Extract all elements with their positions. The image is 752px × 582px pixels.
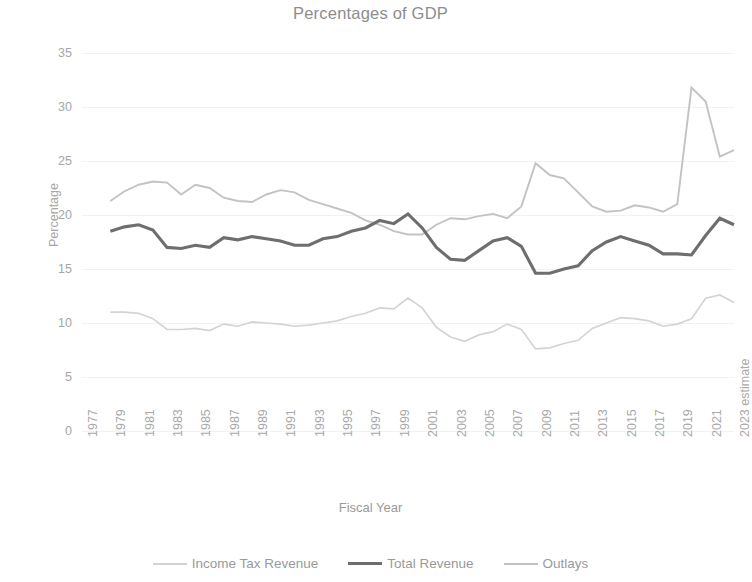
x-tick-1977: 1977 (87, 409, 100, 437)
y-tick-30: 30 (26, 101, 72, 114)
line-income-tax-revenue (110, 295, 734, 349)
x-tick-1993: 1993 (314, 409, 327, 437)
x-tick-2017: 2017 (654, 409, 667, 437)
y-tick-0: 0 (26, 425, 72, 438)
x-tick-2009: 2009 (541, 409, 554, 437)
x-tick-1983: 1983 (172, 409, 185, 437)
legend-swatch-icon (504, 563, 538, 565)
x-tick-1979: 1979 (115, 409, 128, 437)
x-tick-1991: 1991 (285, 409, 298, 437)
legend-item-outlays[interactable]: Outlays (504, 556, 589, 571)
x-tick-2019: 2019 (682, 409, 695, 437)
x-tick-2013: 2013 (597, 409, 610, 437)
y-tick-15: 15 (26, 263, 72, 276)
x-tick-1995: 1995 (342, 409, 355, 437)
x-tick-1999: 1999 (399, 409, 412, 437)
x-axis-title: Fiscal Year (0, 500, 741, 515)
chart-legend: Income Tax RevenueTotal RevenueOutlays (0, 556, 741, 571)
legend-item-label: Total Revenue (387, 556, 473, 571)
x-tick-2023-estimate: 2023 estimate (739, 358, 752, 437)
x-tick-1989: 1989 (257, 409, 270, 437)
y-tick-20: 20 (26, 209, 72, 222)
x-tick-2021: 2021 (711, 409, 724, 437)
y-tick-35: 35 (26, 47, 72, 60)
x-tick-1997: 1997 (370, 409, 383, 437)
y-tick-5: 5 (26, 371, 72, 384)
x-tick-2007: 2007 (512, 409, 525, 437)
legend-swatch-icon (153, 563, 187, 565)
legend-item-label: Outlays (543, 556, 589, 571)
legend-swatch-icon (348, 562, 382, 565)
legend-item-label: Income Tax Revenue (192, 556, 319, 571)
line-total-revenue (110, 214, 734, 273)
legend-item-total-revenue[interactable]: Total Revenue (348, 556, 473, 571)
x-tick-2015: 2015 (626, 409, 639, 437)
x-tick-1987: 1987 (229, 409, 242, 437)
x-tick-2003: 2003 (456, 409, 469, 437)
legend-item-income-tax-revenue[interactable]: Income Tax Revenue (153, 556, 319, 571)
y-tick-10: 10 (26, 317, 72, 330)
x-tick-1981: 1981 (144, 409, 157, 437)
x-tick-2005: 2005 (484, 409, 497, 437)
line-outlays (110, 88, 734, 235)
x-tick-2001: 2001 (427, 409, 440, 437)
plot-area (82, 53, 734, 431)
series-lines (82, 53, 734, 431)
chart-title: Percentages of GDP (0, 4, 741, 23)
y-tick-25: 25 (26, 155, 72, 168)
x-tick-2011: 2011 (569, 410, 582, 437)
x-tick-1985: 1985 (200, 409, 213, 437)
